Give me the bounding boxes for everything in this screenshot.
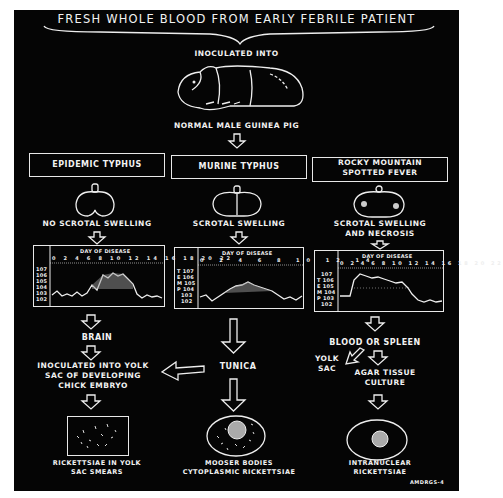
branch-agar-line2: CULTURE xyxy=(335,379,435,388)
disease-label-murine-typhus: MURINE TYPHUS xyxy=(171,162,307,171)
arrow-down-icon xyxy=(227,133,247,149)
arrow-down-icon xyxy=(80,394,102,410)
arrow-left-icon xyxy=(160,360,206,382)
arrow-diagonal-icon xyxy=(344,348,366,368)
credit-label: AMDRGS-4 xyxy=(410,480,444,486)
arrow-down-icon xyxy=(367,350,389,366)
step-yolk-line3: CHICK EMBRYO xyxy=(18,382,168,391)
finding-murine: SCROTAL SWELLING xyxy=(171,220,307,229)
scrotum-rmsf-icon xyxy=(350,184,408,220)
disease-label-rmsf-line1: ROCKY MOUNTAIN xyxy=(312,159,448,168)
step-blood-spleen: BLOOD OR SPLEEN xyxy=(300,338,450,347)
scrotum-murine-icon xyxy=(210,184,264,220)
finding-rmsf-line1: SCROTAL SWELLING xyxy=(312,220,448,229)
branch-agar-line1: AGAR TISSUE xyxy=(335,369,435,378)
disease-label-rmsf-line2: SPOTTED FEVER xyxy=(312,169,448,178)
rickettsiae-dots xyxy=(67,416,129,456)
arrow-down-icon xyxy=(370,240,390,250)
guinea-pig-label: NORMAL MALE GUINEA PIG xyxy=(14,122,459,131)
intranuclear-rickettsiae-illustration xyxy=(345,418,409,462)
arrow-down-icon xyxy=(80,314,102,330)
guinea-pig-illustration xyxy=(170,60,310,115)
result-rmsf-line1: INTRANUCLEAR xyxy=(312,460,448,467)
chart-rmsf-title: DAY OF DISEASE xyxy=(362,253,412,259)
long-arrow-down-icon xyxy=(221,318,247,354)
result-murine-line2: CYTOPLASMIC RICKETTSIAE xyxy=(171,469,307,476)
chart-epidemic-title: DAY OF DISEASE xyxy=(80,248,130,254)
result-murine-line1: MOOSER BODIES xyxy=(171,460,307,467)
chart-epidemic-yticks: 107 106 105 104 103 102 xyxy=(36,266,47,302)
arrow-down-icon xyxy=(229,231,249,245)
inoculated-label: INOCULATED INTO xyxy=(14,50,459,59)
arrow-down-icon xyxy=(364,316,386,332)
long-arrow-down-icon xyxy=(221,378,247,412)
result-rmsf-line2: RICKETTSIAE xyxy=(312,469,448,476)
chart-murine-title: DAY OF DISEASE xyxy=(222,250,272,256)
finding-epidemic: NO SCROTAL SWELLING xyxy=(29,220,165,229)
result-epidemic-line1: RICKETTSIAE IN YOLK xyxy=(29,460,165,467)
step-yolk-line2: SAC OF DEVELOPING xyxy=(18,372,168,381)
chart-rmsf-yticks: 107 T 106 E 105 M 104 P 103 102 xyxy=(317,271,336,307)
chart-murine-yticks: T 107 E 106 M 105 P 104 103 102 xyxy=(177,268,196,304)
disease-label-epidemic-typhus: EPIDEMIC TYPHUS xyxy=(29,160,165,169)
result-epidemic-line2: SAC SMEARS xyxy=(29,469,165,476)
brace xyxy=(40,24,440,48)
finding-rmsf-line2: AND NECROSIS xyxy=(312,230,448,239)
arrow-down-icon xyxy=(87,231,107,245)
step-yolk-line1: INOCULATED INTO YOLK xyxy=(18,362,168,371)
branch-yolk-sac-line1: YOLK xyxy=(310,355,344,364)
chart-rmsf-xticks: 0 2 4 6 8 10 12 14 16 18 20 22 xyxy=(340,260,503,266)
mooser-bodies-illustration xyxy=(205,414,267,458)
step-tunica: TUNICA xyxy=(210,362,266,371)
arrow-down-icon xyxy=(367,394,389,410)
arrow-down-icon xyxy=(80,345,102,361)
scrotum-epidemic-icon xyxy=(72,182,118,220)
step-brain: BRAIN xyxy=(29,333,165,342)
